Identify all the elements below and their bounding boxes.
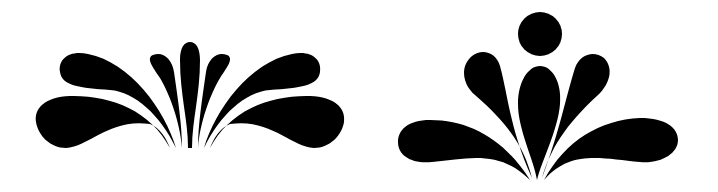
right-ornament (398, 12, 678, 180)
ornaments-graphic (0, 0, 718, 192)
ornament-canvas (0, 0, 718, 192)
left-ornament (36, 42, 344, 148)
